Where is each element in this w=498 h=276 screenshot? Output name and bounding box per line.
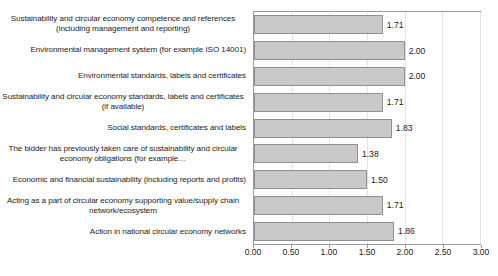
category-axis: Sustainability and circular economy comp…: [0, 11, 250, 245]
value-axis: 0.000.501.001.502.002.503.00: [253, 247, 481, 263]
category-label-text: Action in national circular economy netw…: [90, 227, 246, 237]
axis-tick-label: 2.50: [435, 247, 452, 257]
bar-value-label: 1.71: [387, 200, 404, 210]
bar-value-label: 2.00: [409, 46, 426, 56]
axis-tick-label: 3.00: [473, 247, 490, 257]
bar: [254, 93, 383, 112]
bar-row: 1.83: [254, 115, 480, 141]
gridline: [480, 12, 481, 244]
category-label-text: Environmental management system (for exa…: [30, 45, 246, 55]
bar: [254, 119, 392, 138]
bar: [254, 15, 383, 34]
category-label: Action in national circular economy netw…: [0, 219, 250, 245]
bar: [254, 41, 405, 60]
bar-chart: Sustainability and circular economy comp…: [0, 0, 498, 276]
axis-tick-label: 2.00: [397, 247, 414, 257]
category-label: Sustainability and circular economy stan…: [0, 89, 250, 115]
axis-tick-label: 0.00: [245, 247, 262, 257]
axis-tick-label: 0.50: [283, 247, 300, 257]
bar-value-label: 2.00: [409, 71, 426, 81]
category-label-text: The bidder has previously taken care of …: [0, 144, 246, 165]
bar-value-label: 1.86: [398, 226, 415, 236]
bar-row: 2.00: [254, 64, 480, 90]
category-label: Sustainability and circular economy comp…: [0, 11, 250, 37]
bar: [254, 170, 367, 189]
bar: [254, 67, 405, 86]
category-label: Social standards, certificates and label…: [0, 115, 250, 141]
bar-value-label: 1.71: [387, 97, 404, 107]
category-label: Economic and financial sustainability (i…: [0, 167, 250, 193]
category-label: Acting as a part of circular economy sup…: [0, 193, 250, 219]
bar-row: 1.71: [254, 89, 480, 115]
bar: [254, 144, 358, 163]
category-label-text: Sustainability and circular economy stan…: [0, 92, 246, 113]
bar-value-label: 1.83: [396, 123, 413, 133]
plot-area: 1.712.002.001.711.831.381.501.711.86: [253, 11, 481, 245]
bar: [254, 222, 394, 241]
category-label: The bidder has previously taken care of …: [0, 141, 250, 167]
bar-value-label: 1.50: [371, 175, 388, 185]
axis-tick-label: 1.50: [359, 247, 376, 257]
bars-layer: 1.712.002.001.711.831.381.501.711.86: [254, 12, 480, 244]
bar-row: 1.86: [254, 218, 480, 244]
category-label: Environmental management system (for exa…: [0, 37, 250, 63]
category-label-text: Environmental standards, labels and cert…: [78, 71, 246, 81]
category-label-text: Acting as a part of circular economy sup…: [0, 196, 246, 217]
axis-tick-label: 1.00: [321, 247, 338, 257]
bar-row: 1.50: [254, 167, 480, 193]
category-label-text: Sustainability and circular economy comp…: [0, 14, 246, 35]
bar-value-label: 1.71: [387, 20, 404, 30]
bar-value-label: 1.38: [362, 149, 379, 159]
bar-row: 1.71: [254, 12, 480, 38]
category-label: Environmental standards, labels and cert…: [0, 63, 250, 89]
category-label-text: Economic and financial sustainability (i…: [13, 175, 246, 185]
bar-row: 2.00: [254, 38, 480, 64]
bar-row: 1.71: [254, 192, 480, 218]
bar: [254, 196, 383, 215]
bar-row: 1.38: [254, 141, 480, 167]
category-label-text: Social standards, certificates and label…: [107, 123, 246, 133]
